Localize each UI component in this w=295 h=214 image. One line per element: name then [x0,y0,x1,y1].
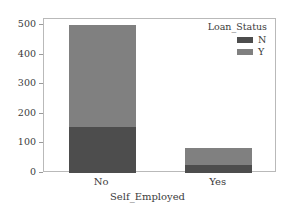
legend-item[interactable]: N [183,35,269,45]
y-tick-mark [39,172,43,173]
y-tick-label: 0 [0,167,36,177]
bar-segment [185,165,252,173]
plot-area: Loan_Status NY [43,18,276,172]
x-tick-label: Yes [178,176,258,187]
legend-swatch-icon [237,49,253,55]
legend-entries: NY [183,35,269,58]
chart-figure: 0100200300400500 Loan_Status NY NoYes Se… [0,0,295,214]
x-tick-label: No [61,176,141,187]
legend-swatch-icon [237,37,253,43]
legend-title: Loan_Status [183,21,269,32]
y-tick-label: 500 [0,19,36,29]
y-tick-label: 200 [0,108,36,118]
legend-item[interactable]: Y [183,47,269,57]
bar-segment [69,127,136,173]
legend-label: N [258,35,267,45]
y-tick-label: 400 [0,49,36,59]
chart-legend: Loan_Status NY [183,21,269,57]
bar-segment [185,148,252,165]
legend-label: Y [258,47,267,57]
bar-segment [69,25,136,127]
y-tick-label: 300 [0,78,36,88]
x-axis-label: Self_Employed [0,191,295,202]
y-tick-label: 100 [0,137,36,147]
